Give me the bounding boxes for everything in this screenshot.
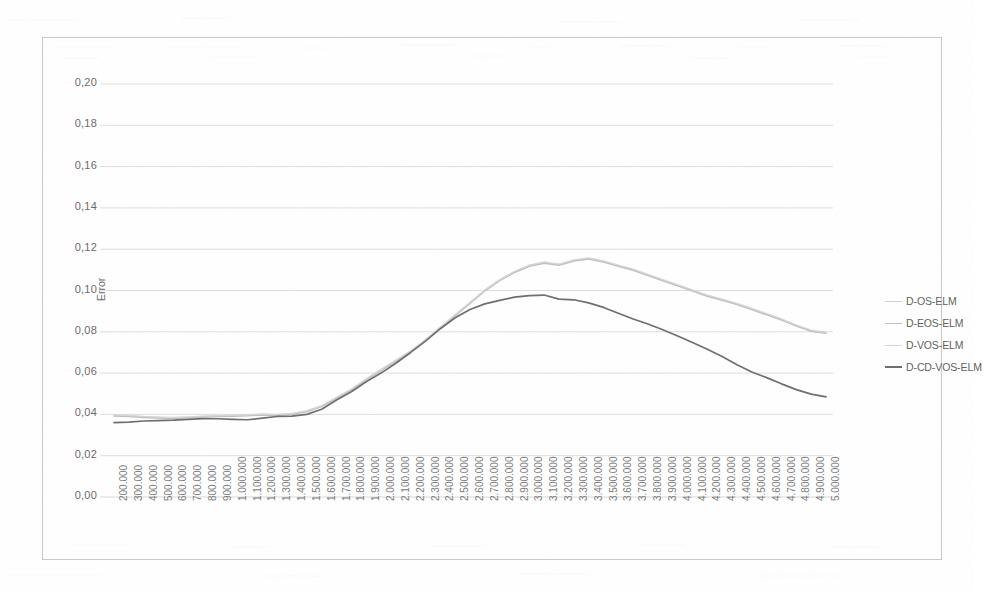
x-axis-tick-label: 4.800.000 <box>800 457 811 502</box>
y-axis-tick-label: 0,20 <box>51 76 97 88</box>
x-axis-tick-label: 1.300.000 <box>281 457 292 502</box>
legend-item-label: D-EOS-ELM <box>906 317 963 329</box>
x-axis-tick-label: 1.600.000 <box>326 457 337 502</box>
series-line <box>114 258 826 417</box>
x-axis-tick-label: 2.100.000 <box>400 457 411 502</box>
x-axis-tick-label: 3.000.000 <box>533 457 544 502</box>
y-axis-tick-label: 0,16 <box>51 159 97 171</box>
x-axis-tick-label: 4.300.000 <box>726 457 737 502</box>
x-axis-tick-label: 3.400.000 <box>593 457 604 502</box>
x-axis-tick-label: 2.500.000 <box>459 457 470 502</box>
gridlines <box>100 84 833 497</box>
x-axis-tick-label: 600.000 <box>177 465 188 501</box>
legend-line-icon <box>885 301 902 302</box>
x-axis-tick-label: 3.200.000 <box>563 457 574 502</box>
x-axis-tick-label: 2.600.000 <box>474 457 485 502</box>
x-axis-tick-label: 1.700.000 <box>341 457 352 502</box>
x-axis-tick-label: 1.000.000 <box>237 457 248 502</box>
x-axis-tick-label: 1.200.000 <box>266 457 277 502</box>
chart-legend: D-OS-ELMD-EOS-ELMD-VOS-ELMD-CD-VOS-ELM <box>885 290 986 378</box>
x-axis-tick-label: 1.900.000 <box>370 457 381 502</box>
y-axis-tick-label: 0,12 <box>51 241 97 253</box>
y-axis-tick-label: 0,08 <box>51 324 97 336</box>
x-axis-tick-label: 1.400.000 <box>296 457 307 502</box>
y-axis-tick-label: 0,18 <box>51 117 97 129</box>
x-axis-tick-label: 1.800.000 <box>355 457 366 502</box>
y-axis-tick-label: 0,00 <box>51 489 97 501</box>
x-axis-tick-label: 900.000 <box>222 465 233 501</box>
x-axis-tick-label: 300.000 <box>133 465 144 501</box>
x-axis-tick-label: 4.200.000 <box>711 457 722 502</box>
y-axis-tick-label: 0,04 <box>51 406 97 418</box>
x-axis-tick-label: 2.300.000 <box>430 457 441 502</box>
series-line <box>114 258 826 418</box>
x-axis-tick-label: 2.400.000 <box>444 457 455 502</box>
x-axis-tick-label: 1.100.000 <box>252 457 263 502</box>
x-axis-tick-label: 4.000.000 <box>682 457 693 502</box>
x-axis-tick-label: 500.000 <box>163 465 174 501</box>
y-axis-tick-label: 0,14 <box>51 200 97 212</box>
legend-item-label: D-VOS-ELM <box>906 339 963 351</box>
legend-item[interactable]: D-CD-VOS-ELM <box>885 356 986 378</box>
x-axis-tick-label: 1.500.000 <box>311 457 322 502</box>
x-axis-tick-label: 4.100.000 <box>697 457 708 502</box>
y-axis-tick-label: 0,02 <box>51 448 97 460</box>
legend-item-label: D-CD-VOS-ELM <box>906 361 982 373</box>
y-axis-tick-label: 0,06 <box>51 365 97 377</box>
x-axis-tick-label: 4.900.000 <box>815 457 826 502</box>
x-axis-tick-label: 2.000.000 <box>385 457 396 502</box>
x-axis-tick-label: 2.800.000 <box>504 457 515 502</box>
x-axis-tick-label: 3.700.000 <box>637 457 648 502</box>
x-axis-tick-label: 400.000 <box>148 465 159 501</box>
x-axis-tick-label: 3.300.000 <box>578 457 589 502</box>
legend-item-label: D-OS-ELM <box>906 295 957 307</box>
x-axis-tick-label: 2.900.000 <box>519 457 530 502</box>
x-axis-tick-label: 200.000 <box>118 465 129 501</box>
legend-line-icon <box>885 345 902 346</box>
x-axis-tick-label: 700.000 <box>192 465 203 501</box>
chart-frame: Error 0,200,180,160,140,120,100,080,060,… <box>42 37 942 560</box>
x-axis-tick-label: 3.800.000 <box>652 457 663 502</box>
legend-item[interactable]: D-VOS-ELM <box>885 334 986 356</box>
x-axis-tick-label: 3.900.000 <box>667 457 678 502</box>
x-axis-tick-label: 3.100.000 <box>548 457 559 502</box>
x-axis-tick-label: 5.000.000 <box>830 457 841 502</box>
legend-line-icon <box>885 323 902 324</box>
x-axis-tick-label: 2.700.000 <box>489 457 500 502</box>
x-axis-tick-label: 4.500.000 <box>756 457 767 502</box>
y-axis-tick-label: 0,10 <box>51 283 97 295</box>
x-axis-tick-label: 4.600.000 <box>771 457 782 502</box>
series-line <box>114 259 826 418</box>
x-axis-tick-label: 3.600.000 <box>622 457 633 502</box>
x-axis-tick-label: 800.000 <box>207 465 218 501</box>
legend-item[interactable]: D-EOS-ELM <box>885 312 986 334</box>
series-lines <box>114 258 826 423</box>
x-axis-tick-label: 3.500.000 <box>608 457 619 502</box>
x-axis-tick-label: 4.400.000 <box>741 457 752 502</box>
x-axis-tick-label: 4.700.000 <box>786 457 797 502</box>
x-axis-tick-label: 2.200.000 <box>415 457 426 502</box>
legend-item[interactable]: D-OS-ELM <box>885 290 986 312</box>
series-line <box>114 295 826 423</box>
legend-line-icon <box>885 366 902 368</box>
